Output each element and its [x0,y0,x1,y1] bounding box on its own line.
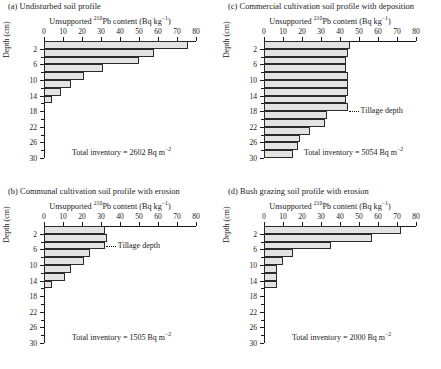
y-tick-minor-b [41,288,44,289]
x-tick-label-d: 50 [355,212,363,221]
x-tick-label-b: 60 [154,212,162,221]
x-tick-label-c: 30 [317,27,325,36]
y-tick-label-c: 10 [249,76,257,85]
y-tick-label-c: 26 [249,138,257,147]
y-tick-label-d: 2 [253,229,257,238]
x-tick-c [359,37,360,41]
bar [264,150,293,158]
x-tick-c [416,37,417,41]
x-tick-label-d: 0 [262,212,266,221]
y-tick-minor-a [41,119,44,120]
bar [264,265,277,273]
y-tick-label-c: 22 [249,122,257,131]
y-tick-label-d: 18 [249,292,257,301]
tillage-depth-label: Tillage depth [361,106,403,115]
y-axis-label-c: Depth (cm) [222,21,231,58]
y-tick-minor-d [261,304,264,305]
soil-profile-figure: (a) Undisturbed soil profileUnsupported … [0,0,441,369]
plot-area-c: 0102030405060708026101418222630Tillage d… [264,41,416,158]
bar [44,80,71,88]
x-tick-c [397,37,398,41]
x-tick-label-c: 70 [393,27,401,36]
x-tick-label-c: 60 [374,27,382,36]
tillage-depth-leader-line [349,111,359,112]
x-tick-label-a: 50 [135,27,143,36]
x-tick-label-d: 10 [279,212,287,221]
bar [264,49,348,57]
x-tick-b [196,222,197,226]
bar [44,96,52,104]
y-tick-label-b: 2 [33,229,37,238]
y-tick-label-a: 18 [29,107,37,116]
bar [44,88,61,96]
bar [44,226,105,234]
y-tick-label-b: 18 [29,292,37,301]
y-tick-label-c: 6 [253,60,257,69]
bar [264,111,327,119]
y-axis-label-a: Depth (cm) [2,21,11,58]
x-tick-label-d: 60 [374,212,382,221]
bar [264,273,277,281]
y-tick-label-a: 14 [29,91,37,100]
x-tick-b [158,222,159,226]
x-tick-label-b: 30 [97,212,105,221]
bar [264,72,348,80]
x-tick-label-c: 0 [262,27,266,36]
x-tick-label-a: 60 [154,27,162,36]
bar [44,249,90,257]
y-tick-label-b: 14 [29,276,37,285]
y-axis-label-d: Depth (cm) [222,206,231,243]
bar [264,80,348,88]
y-tick-major-b [40,312,44,313]
x-tick-label-b: 40 [116,212,124,221]
panel-c: (c) Commercial cultivation soil profile … [220,0,440,184]
x-axis-title-b: Unsupported 210Pb content (Bq kg−1) [0,200,220,211]
y-tick-major-b [40,327,44,328]
y-tick-minor-b [41,304,44,305]
bar [44,273,65,281]
bar [264,96,346,104]
bar [44,49,154,57]
bar [44,57,139,65]
y-tick-label-a: 30 [29,154,37,163]
x-tick-label-d: 20 [298,212,306,221]
x-tick-label-c: 20 [298,27,306,36]
x-tick-label-b: 80 [192,212,200,221]
x-tick-b [139,222,140,226]
x-tick-label-a: 10 [59,27,67,36]
tillage-depth-leader-line [106,246,116,247]
x-tick-label-c: 80 [412,27,420,36]
x-tick-label-b: 20 [78,212,86,221]
bar [264,281,277,289]
tillage-depth-label: Tillage depth [118,241,160,250]
y-tick-major-a [40,127,44,128]
bar [264,127,310,135]
x-tick-label-a: 40 [116,27,124,36]
total-inventory-c: Total inventory = 5054 Bq m−2 [304,146,403,157]
bar [264,41,350,49]
y-tick-label-d: 30 [249,339,257,348]
y-tick-major-a [40,111,44,112]
x-tick-label-b: 10 [59,212,67,221]
x-tick-label-a: 30 [97,27,105,36]
y-tick-major-a [40,158,44,159]
y-tick-label-a: 6 [33,60,37,69]
bar [264,135,300,143]
bar [44,265,71,273]
y-tick-major-b [40,296,44,297]
y-tick-label-d: 26 [249,323,257,332]
y-tick-major-d [260,327,264,328]
panel-d: (d) Bush grazing soil profile with erosi… [220,185,440,369]
y-tick-label-a: 26 [29,138,37,147]
x-tick-b [120,222,121,226]
x-tick-label-c: 10 [279,27,287,36]
panel-title-c: (c) Commercial cultivation soil profile … [228,2,414,11]
y-tick-minor-b [41,320,44,321]
y-tick-label-c: 18 [249,107,257,116]
y-tick-label-d: 22 [249,307,257,316]
y-tick-major-b [40,343,44,344]
panel-title-a: (a) Undisturbed soil profile [8,2,101,11]
x-tick-label-d: 30 [317,212,325,221]
plot-area-d: 0102030405060708026101418222630Total inv… [264,226,416,343]
bar [44,64,103,72]
